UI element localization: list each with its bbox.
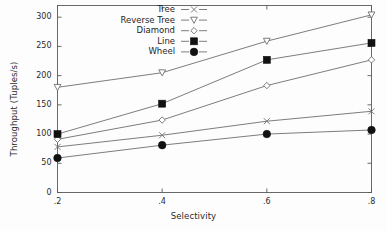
x-tick-label: .8 (360, 197, 384, 206)
legend-marker-wheel (181, 48, 207, 56)
y-axis-label: Throughput (Tuples/s) (9, 49, 19, 169)
series-tree (55, 108, 375, 150)
throughput-selectivity-chart: Throughput (Tuples/s) Selectivity 050100… (0, 0, 387, 231)
y-tick-label: 250 (22, 41, 52, 50)
legend-label-line: Line (89, 36, 175, 46)
legend-markers (181, 7, 207, 56)
legend-label-diamond: Diamond (89, 25, 175, 35)
y-tick-label: 100 (22, 129, 52, 138)
y-tick-label: 300 (22, 12, 52, 21)
legend-marker-reverse-tree (181, 17, 207, 23)
legend-marker-tree (181, 7, 207, 13)
x-axis-label: Selectivity (0, 211, 387, 221)
legend-label-tree: Tree (89, 4, 175, 14)
y-tick-label: 200 (22, 71, 52, 80)
legend-marker-diamond (181, 28, 207, 34)
y-tick-label: 150 (22, 100, 52, 109)
x-tick-label: .2 (46, 197, 70, 206)
legend-label-wheel: Wheel (89, 46, 175, 56)
x-tick-label: .4 (150, 197, 174, 206)
legend-label-reverse-tree: Reverse Tree (89, 15, 175, 25)
legend-marker-line (181, 38, 207, 45)
y-tick-label: 50 (22, 158, 52, 167)
y-tick-label: 0 (22, 188, 52, 197)
series-diamond (54, 57, 374, 143)
x-tick-label: .6 (255, 197, 279, 206)
